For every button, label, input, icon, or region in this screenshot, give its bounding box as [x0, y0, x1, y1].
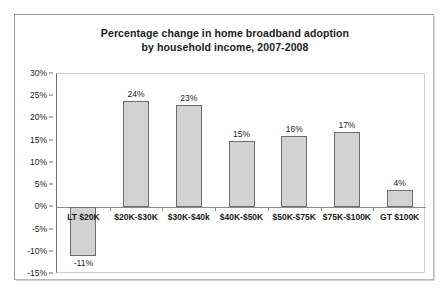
- bar-value-label: 23%: [167, 93, 211, 103]
- bar-value-label: 15%: [220, 129, 264, 139]
- bar-value-label: 16%: [272, 124, 316, 134]
- y-axis-tick-mark: [49, 139, 53, 140]
- y-axis-tick-label: -15%: [27, 268, 47, 278]
- bar[interactable]: [229, 141, 255, 208]
- y-axis-tick-mark: [49, 161, 53, 162]
- y-axis-tick-mark: [49, 117, 53, 118]
- bar-value-label: 24%: [114, 89, 158, 99]
- bar[interactable]: [334, 132, 360, 208]
- x-axis-tick-mark: [162, 207, 163, 211]
- y-axis-tick-mark: [49, 250, 53, 251]
- bar-value-label: 17%: [325, 120, 369, 130]
- chart-frame: Percentage change in home broadband adop…: [14, 14, 434, 280]
- y-axis-tick-mark: [49, 73, 53, 74]
- chart-title: Percentage change in home broadband adop…: [15, 26, 435, 54]
- x-axis-tick-mark: [268, 207, 269, 211]
- x-axis-tick-mark: [215, 207, 216, 211]
- chart-title-line-1: Percentage change in home broadband adop…: [15, 26, 435, 40]
- y-axis-tick-label: 15%: [30, 135, 47, 145]
- bar[interactable]: [123, 101, 149, 208]
- x-axis-tick-mark: [373, 207, 374, 211]
- plot-area: -11%LT $20K24%$20K-$30K23%$30K-$40k15%$4…: [56, 73, 425, 273]
- bar-value-label: 4%: [378, 178, 422, 188]
- x-axis-tick-mark: [110, 207, 111, 211]
- y-axis-tick-label: 5%: [35, 179, 47, 189]
- y-axis-tick-label: -10%: [27, 246, 47, 256]
- y-axis: 30%25%20%15%10%5%0%-5%-10%-15%: [15, 73, 53, 273]
- x-axis-category-label: GT $100K: [368, 212, 432, 222]
- y-axis-tick-label: 25%: [30, 90, 47, 100]
- y-axis-tick-mark: [49, 273, 53, 274]
- y-axis-tick-label: 20%: [30, 112, 47, 122]
- y-axis-tick-label: 0%: [35, 201, 47, 211]
- chart-title-line-2: by household income, 2007-2008: [15, 40, 435, 54]
- bar[interactable]: [281, 136, 307, 207]
- y-axis-tick-mark: [49, 184, 53, 185]
- bar[interactable]: [387, 190, 413, 208]
- y-axis-tick-mark: [49, 206, 53, 207]
- y-axis-tick-label: 30%: [30, 68, 47, 78]
- y-axis-tick-mark: [49, 228, 53, 229]
- y-axis-tick-label: -5%: [32, 224, 47, 234]
- y-axis-tick-label: 10%: [30, 157, 47, 167]
- x-axis-tick-mark: [321, 207, 322, 211]
- y-axis-tick-mark: [49, 95, 53, 96]
- bar-value-label: -11%: [61, 258, 105, 268]
- bar[interactable]: [176, 105, 202, 207]
